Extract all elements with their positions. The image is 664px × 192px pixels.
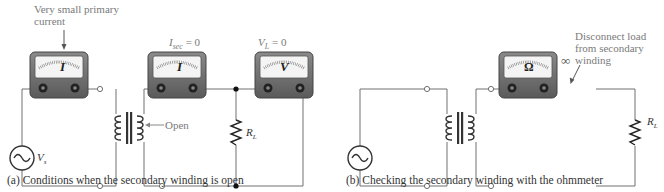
transformer-icon [115, 112, 143, 144]
load-label-b: RL [647, 115, 658, 132]
source-label: Vs [37, 151, 46, 168]
open-label: Open [165, 119, 189, 131]
meter1-symbol: I [60, 59, 65, 75]
ac-source-b-icon [348, 146, 372, 170]
isec-label: Isec = 0 [169, 36, 200, 53]
disconnect-annotation: Disconnect load from secondary winding [575, 30, 646, 66]
open-arrow-icon [145, 123, 164, 128]
meter3-symbol: V [280, 59, 289, 75]
figure-a [22, 89, 312, 186]
caption-a: (a) Conditions when the secondary windin… [7, 174, 244, 186]
load-label-a: RL [246, 126, 257, 143]
ac-source-icon [10, 146, 34, 170]
resistor-icon [231, 120, 241, 145]
primary-current-annotation: Very small primary current [34, 3, 119, 27]
ohmmeter [499, 52, 557, 98]
meter2-symbol: I [177, 59, 182, 75]
vl-label: VL = 0 [258, 36, 286, 53]
caption-b: (b) Checking the secondary winding with … [346, 174, 603, 186]
figure-b [360, 89, 635, 186]
ammeter-primary [30, 52, 88, 98]
transformer-b-icon [446, 112, 474, 144]
resistor-b-icon [630, 120, 640, 145]
ohm-symbol: Ω [524, 60, 534, 75]
disconnect-arrow-icon [570, 65, 580, 84]
infinity-symbol: ∞ [561, 55, 570, 67]
primary-arrow-icon [62, 30, 67, 50]
circuit-diagram [0, 0, 664, 192]
